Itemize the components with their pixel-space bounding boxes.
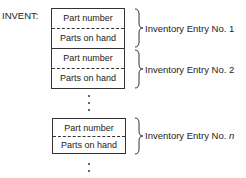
- parts-on-hand-field: Parts on hand: [52, 73, 124, 83]
- entry-label-2: Inventory Entry No. 2: [145, 64, 234, 75]
- array-label: INVENT:: [2, 10, 38, 21]
- entry-label-variable: n: [229, 130, 234, 141]
- inventory-entry-n: Part number Parts on hand: [52, 118, 126, 154]
- field-divider: [52, 28, 124, 29]
- entry-label-1: Inventory Entry No. 1: [145, 23, 234, 34]
- part-number-field: Part number: [53, 123, 125, 133]
- ellipsis-dot: [88, 102, 90, 104]
- part-number-field: Part number: [52, 13, 124, 23]
- ellipsis-dot: [88, 95, 90, 97]
- part-number-field: Part number: [52, 53, 124, 63]
- entry-label-prefix: Inventory Entry No.: [145, 130, 229, 141]
- field-divider: [53, 136, 125, 137]
- brace-icon: [134, 49, 144, 89]
- brace-icon: [134, 117, 144, 155]
- parts-on-hand-field: Parts on hand: [53, 140, 125, 150]
- ellipsis-dot: [88, 170, 90, 172]
- inventory-entry-2: Part number Parts on hand: [51, 48, 125, 89]
- ellipsis-dot: [88, 163, 90, 165]
- brace-icon: [134, 8, 144, 48]
- field-divider: [52, 68, 124, 69]
- parts-on-hand-field: Parts on hand: [52, 33, 124, 43]
- ellipsis-dot: [88, 109, 90, 111]
- inventory-entry-1: Part number Parts on hand: [51, 8, 125, 49]
- entry-label-n: Inventory Entry No. n: [145, 130, 234, 141]
